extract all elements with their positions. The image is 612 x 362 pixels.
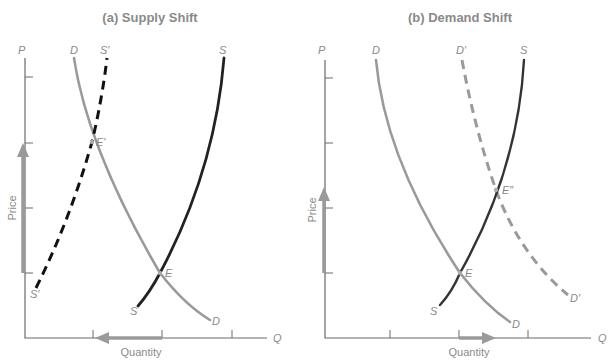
- panel-a-demand-curve: [74, 58, 210, 320]
- arrow-up-icon: [17, 143, 29, 157]
- panel-b-new-demand-curve: [462, 60, 568, 295]
- panel-a-d-top-label: D: [70, 44, 78, 56]
- panel-b-e-label: E: [465, 267, 473, 279]
- panel-demand-shift: (b) Demand Shift P Q Price Quantity D D …: [306, 10, 607, 358]
- panel-b-supply-curve: [440, 60, 524, 305]
- panel-b-e-double-prime-label: E″: [502, 184, 514, 196]
- panel-b-d-bottom-label: D: [512, 318, 520, 330]
- panel-b-d-prime-bottom-label: D′: [570, 292, 581, 304]
- panel-b-p-symbol: P: [318, 44, 326, 56]
- panel-b-s-top-label: S: [520, 44, 528, 56]
- panel-b-price-label: Price: [306, 197, 318, 222]
- panel-b-q-symbol: Q: [598, 332, 607, 344]
- panel-a-equilibrium-e: [158, 271, 162, 275]
- panel-a-quantity-label: Quantity: [121, 346, 162, 358]
- panel-b-title: (b) Demand Shift: [408, 10, 513, 25]
- panel-a-supply-curve: [138, 58, 224, 306]
- panel-a-title: (a) Supply Shift: [102, 10, 198, 25]
- panel-b-quantity-label: Quantity: [449, 346, 490, 358]
- panel-a-s-prime-top-label: S′: [100, 44, 110, 56]
- panel-a-q-symbol: Q: [273, 332, 282, 344]
- panel-a-s-prime-bottom-label: S′: [30, 288, 40, 300]
- panel-b-d-prime-top-label: D′: [456, 44, 467, 56]
- arrow-left-icon: [95, 332, 109, 344]
- panel-a-e-prime-label: E′: [96, 136, 106, 148]
- arrow-right-icon: [482, 332, 496, 344]
- panel-a-e-label: E: [165, 267, 173, 279]
- panel-b-equilibrium-e: [458, 271, 462, 275]
- arrow-up-icon: [318, 187, 330, 201]
- panel-a-s-top-label: S: [219, 44, 227, 56]
- panel-a-p-symbol: P: [18, 44, 26, 56]
- supply-demand-diagram: (a) Supply Shift P Q Price Quantity D D …: [0, 0, 612, 362]
- panel-a-d-bottom-label: D: [212, 315, 220, 327]
- panel-b-d-top-label: D: [372, 44, 380, 56]
- panel-a-equilibrium-e-prime: [90, 140, 94, 144]
- panel-b-demand-curve: [376, 60, 510, 322]
- panel-a-new-supply-curve: [36, 58, 107, 288]
- panel-b-equilibrium-e-double-prime: [494, 188, 498, 192]
- panel-supply-shift: (a) Supply Shift P Q Price Quantity D D …: [6, 10, 282, 358]
- panel-a-s-bottom-label: S: [130, 305, 138, 317]
- panel-a-price-label: Price: [6, 195, 18, 220]
- panel-b-axes: [325, 60, 591, 338]
- panel-b-s-bottom-label: S: [430, 305, 438, 317]
